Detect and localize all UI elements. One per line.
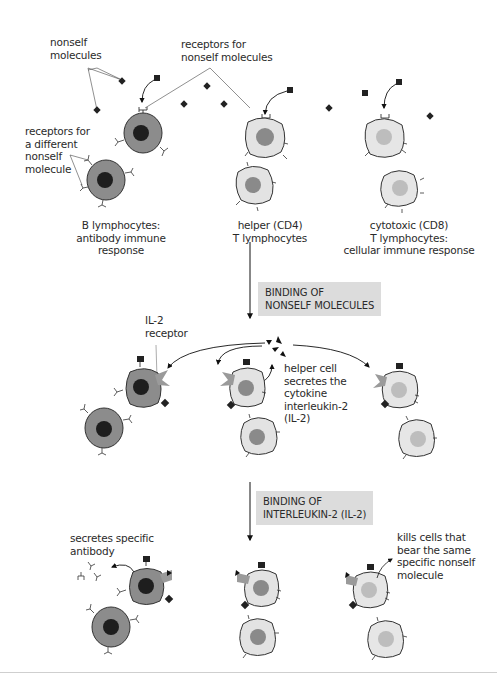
b-lymphocyte-cell xyxy=(86,604,139,654)
helper-t-activated xyxy=(220,359,266,409)
label-cytotoxic-t: cytotoxic (CD8) T lymphocytes: cellular … xyxy=(334,219,484,257)
label-secretes-antibody: secretes specific antibody xyxy=(70,532,154,557)
cytotoxic-t-activated xyxy=(373,363,419,408)
cytotoxic-t-killing xyxy=(345,559,392,609)
b-lymphocyte-activated xyxy=(114,356,170,407)
label-receptors-for-nonself: receptors for nonself molecules xyxy=(181,38,273,63)
helper-t-cell xyxy=(241,414,280,457)
label-il2-receptor: IL-2 receptor xyxy=(145,314,188,339)
helper-t-cell xyxy=(240,615,279,658)
label-helper-secretes: helper cell secretes the cytokine interl… xyxy=(284,362,348,425)
diamond-molecule-icon xyxy=(426,112,433,119)
square-molecule-icon xyxy=(287,87,293,93)
square-molecule-icon xyxy=(396,79,402,85)
helper-t-cell xyxy=(236,162,276,211)
label-kills-cells: kills cells that bear the same specific … xyxy=(397,531,475,581)
label-receptors-different: receptors for a different nonself molecu… xyxy=(25,125,90,175)
square-molecule-icon xyxy=(362,90,368,96)
diamond-molecule-icon xyxy=(180,100,187,107)
label-helper-t: helper (CD4) T lymphocytes xyxy=(215,219,325,244)
b-lymphocyte-cell xyxy=(80,404,132,455)
diamond-molecule-icon xyxy=(220,100,227,107)
cytotoxic-t-cell xyxy=(381,171,424,213)
b-lymphocyte-plasma xyxy=(117,556,173,605)
il2-molecules xyxy=(266,336,286,357)
label-b-lymphocytes: B lymphocytes: antibody immune response xyxy=(66,219,176,257)
free-antibodies xyxy=(78,562,101,581)
immune-response-diagram xyxy=(0,0,497,685)
square-molecule-icon xyxy=(154,75,160,81)
diamond-molecule-icon xyxy=(325,104,332,111)
diamond-molecule-icon xyxy=(203,82,210,89)
step-box-binding-il2: BINDING OF INTERLEUKIN-2 (IL-2) xyxy=(256,491,373,525)
helper-t-proliferating xyxy=(235,562,281,609)
label-nonself-molecules: nonself molecules xyxy=(50,36,102,61)
diamond-molecule-icon xyxy=(93,106,100,113)
diamond-molecule-icon xyxy=(118,77,125,84)
cytotoxic-t-cell xyxy=(365,114,407,157)
page-divider xyxy=(0,672,497,673)
cytotoxic-t-cell xyxy=(368,617,407,660)
step-box-binding-nonself: BINDING OF NONSELF MOLECULES xyxy=(258,282,381,316)
cytotoxic-t-cell xyxy=(399,416,437,459)
helper-t-cell xyxy=(245,114,288,159)
b-lymphocyte-cell xyxy=(115,107,168,156)
